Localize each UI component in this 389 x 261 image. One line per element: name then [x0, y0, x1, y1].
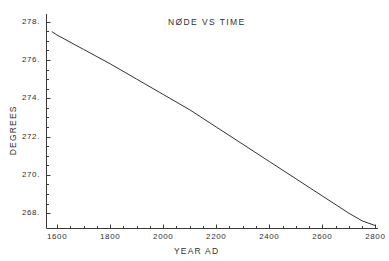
- x-axis-label: YEAR AD: [174, 247, 219, 256]
- y-tick-label: 272.: [14, 133, 40, 141]
- y-tick-label: 274.: [14, 94, 40, 102]
- x-tick-label: 2400: [254, 233, 284, 241]
- data-series-line: [52, 32, 376, 226]
- y-tick-label: 268.: [14, 209, 40, 217]
- y-tick-label: 278.: [14, 18, 40, 26]
- y-axis-label: DEGREES: [9, 100, 18, 160]
- axes-group: [47, 14, 379, 229]
- x-tick-label: 1600: [42, 233, 72, 241]
- x-tick-label: 2600: [307, 233, 337, 241]
- y-ticks-group: [47, 23, 51, 214]
- x-tick-label: 2200: [201, 233, 231, 241]
- chart-figure: NØDE VS TIME YEAR AD DEGREES 16001800200…: [0, 0, 389, 261]
- x-tick-label: 2800: [360, 233, 389, 241]
- y-tick-label: 270.: [14, 171, 40, 179]
- x-tick-label: 1800: [95, 233, 125, 241]
- y-tick-label: 276.: [14, 56, 40, 64]
- plot-canvas: [0, 0, 389, 261]
- chart-title: NØDE VS TIME: [168, 18, 246, 27]
- x-tick-label: 2000: [148, 233, 178, 241]
- x-ticks-group: [58, 225, 376, 229]
